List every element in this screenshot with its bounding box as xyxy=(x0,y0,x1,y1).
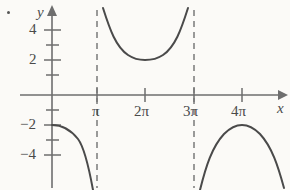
x-axis-arrow-icon xyxy=(278,90,288,100)
curve-branch-middle xyxy=(103,8,188,60)
x-tick-label-pi: π xyxy=(92,104,100,119)
figure-container: 4 2 −2 −4 π 2π 3π 4π y x xyxy=(0,0,290,190)
curve-branch-right xyxy=(200,125,284,190)
y-axis-arrow-icon xyxy=(47,5,57,16)
y-tick-label-neg4: −4 xyxy=(20,147,36,162)
x-tick-label-2pi: 2π xyxy=(134,104,149,119)
y-tick-label-2: 2 xyxy=(29,52,37,67)
y-tick-label-4: 4 xyxy=(29,22,37,37)
y-tick-label-neg2: −2 xyxy=(20,117,36,132)
curve-branch-left xyxy=(52,125,93,190)
y-axis-label: y xyxy=(37,5,44,20)
x-axis-label: x xyxy=(277,101,284,116)
graph-canvas xyxy=(0,0,290,190)
x-tick-label-3pi: 3π xyxy=(183,104,198,119)
x-tick-label-4pi: 4π xyxy=(231,104,246,119)
